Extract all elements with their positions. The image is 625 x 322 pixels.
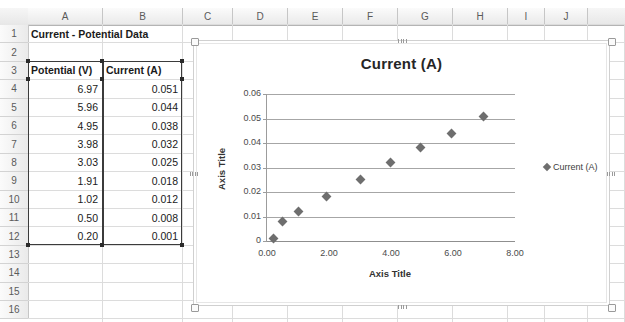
y-tick-mark bbox=[263, 168, 267, 169]
spreadsheet-app: ABCDEFGHIJ 12345678910111213141516 Curre… bbox=[0, 0, 625, 322]
cell-b5-current[interactable]: 0.044 bbox=[103, 99, 181, 116]
cell-a1-title[interactable]: Current - Potential Data bbox=[28, 25, 188, 42]
row-header-7[interactable]: 7 bbox=[0, 135, 29, 153]
y-tick-label: 0.05 bbox=[219, 113, 261, 123]
gridline-horizontal bbox=[267, 192, 515, 193]
data-point-marker[interactable] bbox=[478, 111, 488, 121]
y-axis-title[interactable]: Axis Title bbox=[216, 147, 227, 189]
y-tick-label: 0.04 bbox=[219, 137, 261, 147]
cell-a9-potential[interactable]: 1.91 bbox=[28, 172, 101, 189]
chart-resize-handle[interactable] bbox=[190, 172, 199, 177]
cell-a3-header-potential[interactable]: Potential (V) bbox=[28, 62, 101, 79]
row-header-2[interactable]: 2 bbox=[0, 43, 29, 61]
selection-handle[interactable] bbox=[26, 243, 30, 247]
column-header-e[interactable]: E bbox=[288, 8, 343, 25]
cell-a11-potential[interactable]: 0.50 bbox=[28, 209, 101, 226]
data-point-marker[interactable] bbox=[321, 192, 331, 202]
cell-a5-potential[interactable]: 5.96 bbox=[28, 99, 101, 116]
cell-b8-current[interactable]: 0.025 bbox=[103, 154, 181, 171]
cell-a8-potential[interactable]: 3.03 bbox=[28, 154, 101, 171]
y-tick-label: 0 bbox=[219, 235, 261, 245]
chart-legend[interactable]: Current (A) bbox=[544, 162, 598, 172]
cell-b6-current[interactable]: 0.038 bbox=[103, 117, 181, 134]
selection-handle[interactable] bbox=[100, 59, 104, 63]
selection-handle[interactable] bbox=[180, 59, 184, 63]
row-header-1[interactable]: 1 bbox=[0, 25, 29, 43]
chart-resize-handle[interactable] bbox=[608, 38, 616, 46]
y-tick-mark bbox=[263, 241, 267, 242]
gridline-horizontal bbox=[267, 94, 515, 95]
column-header-i[interactable]: I bbox=[508, 8, 545, 25]
column-header-j[interactable]: J bbox=[545, 8, 588, 25]
row-header-6[interactable]: 6 bbox=[0, 117, 29, 135]
cell-b10-current[interactable]: 0.012 bbox=[103, 191, 181, 208]
row-header-13[interactable]: 13 bbox=[0, 246, 29, 264]
selection-handle[interactable] bbox=[180, 243, 184, 247]
row-header-5[interactable]: 5 bbox=[0, 99, 29, 117]
row-header-11[interactable]: 11 bbox=[0, 209, 29, 227]
y-tick-mark bbox=[263, 192, 267, 193]
cell-a10-potential[interactable]: 1.02 bbox=[28, 191, 101, 208]
y-tick-label: 0.06 bbox=[219, 88, 261, 98]
data-point-marker[interactable] bbox=[268, 234, 278, 244]
x-axis-title[interactable]: Axis Title bbox=[266, 268, 514, 279]
x-tick-label: 4.00 bbox=[367, 248, 415, 258]
column-header-b[interactable]: B bbox=[103, 8, 183, 25]
chart-title: Current (A) bbox=[194, 55, 609, 72]
row-header-16[interactable]: 16 bbox=[0, 301, 29, 319]
column-header-a[interactable]: A bbox=[28, 8, 103, 25]
data-point-marker[interactable] bbox=[294, 207, 304, 217]
cell-a12-potential[interactable]: 0.20 bbox=[28, 227, 101, 244]
data-point-marker[interactable] bbox=[356, 175, 366, 185]
row-header-15[interactable]: 15 bbox=[0, 283, 29, 301]
data-point-marker[interactable] bbox=[278, 216, 288, 226]
chart-resize-handle[interactable] bbox=[608, 304, 616, 312]
row-header-10[interactable]: 10 bbox=[0, 191, 29, 209]
column-header-c[interactable]: C bbox=[183, 8, 233, 25]
chart-resize-handle[interactable] bbox=[191, 38, 199, 46]
x-tick-label: 0.00 bbox=[243, 248, 291, 258]
row-header-3[interactable]: 3 bbox=[0, 62, 29, 80]
cell-a7-potential[interactable]: 3.98 bbox=[28, 135, 101, 152]
grid-vline bbox=[182, 25, 183, 322]
chart-resize-handle[interactable] bbox=[191, 304, 199, 312]
legend-label: Current (A) bbox=[553, 162, 598, 172]
cell-b7-current[interactable]: 0.032 bbox=[103, 135, 181, 152]
chart-resize-handle[interactable] bbox=[607, 172, 616, 177]
row-header-4[interactable]: 4 bbox=[0, 80, 29, 98]
data-point-marker[interactable] bbox=[415, 143, 425, 153]
plot-area: 00.010.020.030.040.050.060.002.004.006.0… bbox=[266, 94, 514, 241]
x-tick-label: 8.00 bbox=[491, 248, 539, 258]
row-header-9[interactable]: 9 bbox=[0, 172, 29, 190]
cell-b11-current[interactable]: 0.008 bbox=[103, 209, 181, 226]
legend-diamond-icon bbox=[543, 162, 551, 170]
selection-handle[interactable] bbox=[100, 243, 104, 247]
selection-handle[interactable] bbox=[100, 77, 104, 81]
gridline-horizontal bbox=[267, 168, 515, 169]
selection-handle[interactable] bbox=[26, 59, 30, 63]
embedded-chart-object[interactable]: Current (A) 00.010.020.030.040.050.060.0… bbox=[193, 40, 610, 306]
column-header-g[interactable]: G bbox=[398, 8, 453, 25]
cell-a4-potential[interactable]: 6.97 bbox=[28, 80, 101, 97]
row-header-14[interactable]: 14 bbox=[0, 264, 29, 282]
chart-resize-handle[interactable] bbox=[398, 305, 407, 310]
data-point-marker[interactable] bbox=[385, 158, 395, 168]
column-header-h[interactable]: H bbox=[453, 8, 508, 25]
x-tick-label: 6.00 bbox=[429, 248, 477, 258]
column-header-f[interactable]: F bbox=[343, 8, 398, 25]
cell-a6-potential[interactable]: 4.95 bbox=[28, 117, 101, 134]
cell-b3-header-current[interactable]: Current (A) bbox=[103, 62, 181, 79]
row-header-12[interactable]: 12 bbox=[0, 227, 29, 245]
column-header-d[interactable]: D bbox=[233, 8, 288, 25]
cell-b4-current[interactable]: 0.051 bbox=[103, 80, 181, 97]
chart-resize-handle[interactable] bbox=[398, 39, 407, 44]
y-tick-label: 0.01 bbox=[219, 211, 261, 221]
data-point-marker[interactable] bbox=[447, 128, 457, 138]
y-tick-mark bbox=[263, 143, 267, 144]
selection-handle[interactable] bbox=[180, 77, 184, 81]
selection-handle[interactable] bbox=[26, 77, 30, 81]
cell-b9-current[interactable]: 0.018 bbox=[103, 172, 181, 189]
grid-hline bbox=[28, 318, 625, 319]
row-header-8[interactable]: 8 bbox=[0, 154, 29, 172]
cell-b12-current[interactable]: 0.001 bbox=[103, 227, 181, 244]
